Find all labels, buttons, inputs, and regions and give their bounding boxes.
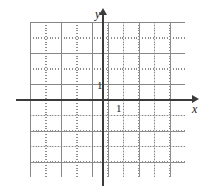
y-axis-label: y — [95, 8, 100, 20]
y-axis-unit-tick-label: 1 — [97, 80, 103, 91]
y-axis-line — [102, 14, 104, 186]
coordinate-grid-figure: y x 1 1 — [0, 0, 209, 192]
x-axis-line — [16, 99, 194, 101]
x-axis-unit-tick-label: 1 — [116, 103, 122, 114]
x-axis-label: x — [192, 103, 197, 115]
